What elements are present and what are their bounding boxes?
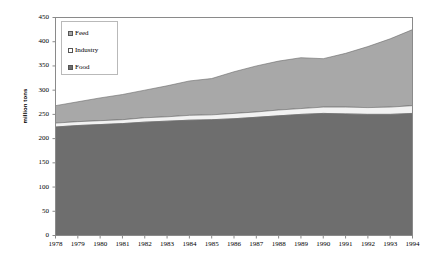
x-tick-label: 1982 bbox=[133, 241, 157, 248]
legend-swatch-icon bbox=[68, 48, 73, 53]
x-tick-label: 1979 bbox=[66, 241, 90, 248]
x-tick-label: 1985 bbox=[200, 241, 224, 248]
legend-label: Feed bbox=[75, 30, 89, 37]
legend-label: Industry bbox=[75, 47, 98, 54]
x-tick-label: 1981 bbox=[110, 241, 134, 248]
stacked-area-chart: million tons 450400350300250200150100500… bbox=[0, 0, 430, 265]
x-tick-label: 1978 bbox=[44, 241, 68, 248]
x-tick-label: 1989 bbox=[289, 241, 313, 248]
legend-swatch-icon bbox=[68, 65, 73, 70]
x-tick-label: 1984 bbox=[177, 241, 201, 248]
legend-item-feed: Feed bbox=[68, 28, 89, 38]
x-tick-label: 1988 bbox=[267, 241, 291, 248]
x-tick-label: 1994 bbox=[401, 241, 425, 248]
legend-item-food: Food bbox=[68, 62, 89, 72]
x-tick-label: 1987 bbox=[244, 241, 268, 248]
x-tick-label: 1986 bbox=[222, 241, 246, 248]
x-tick-label: 1980 bbox=[88, 241, 112, 248]
x-tick-label: 1991 bbox=[334, 241, 358, 248]
legend-label: Food bbox=[75, 64, 89, 71]
x-tick-label: 1992 bbox=[356, 241, 380, 248]
legend-item-industry: Industry bbox=[68, 45, 98, 55]
x-tick-label: 1990 bbox=[311, 241, 335, 248]
x-tick-label: 1983 bbox=[155, 241, 179, 248]
x-tick-label: 1993 bbox=[378, 241, 402, 248]
legend-swatch-icon bbox=[68, 31, 73, 36]
legend: FeedIndustryFood bbox=[61, 21, 118, 75]
area-food bbox=[56, 113, 413, 235]
